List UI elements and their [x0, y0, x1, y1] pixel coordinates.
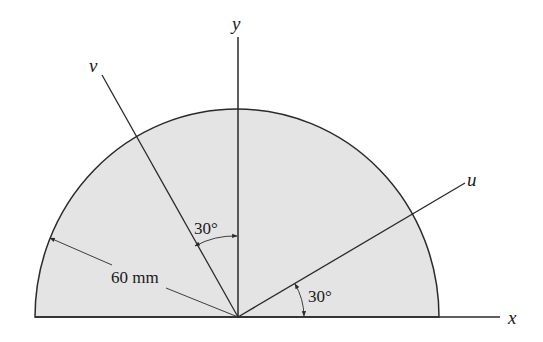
- v-axis-label: v: [89, 55, 98, 76]
- angle-label-v-y: 30°: [194, 219, 218, 238]
- u-axis-label: u: [467, 169, 477, 190]
- semicircle-area: [35, 109, 439, 317]
- angle-label-x-u: 30°: [308, 287, 332, 306]
- y-axis-label: y: [230, 13, 241, 34]
- x-axis-label: x: [507, 307, 517, 328]
- radius-label: 60 mm: [111, 268, 159, 287]
- semicircle-diagram: y v u x 60 mm 30° 30°: [0, 0, 543, 342]
